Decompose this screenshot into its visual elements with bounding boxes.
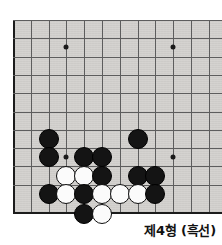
board-stones-overhang[interactable] <box>13 20 222 236</box>
go-problem-figure: 제4형 (흑선) <box>0 0 222 245</box>
figure-caption: 제4형 (흑선) <box>144 220 216 239</box>
white-stone[interactable] <box>92 204 112 224</box>
